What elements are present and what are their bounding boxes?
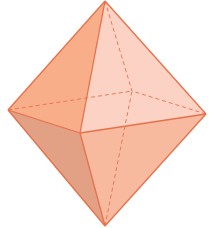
octahedron-svg xyxy=(0,0,214,228)
octahedron-diagram xyxy=(0,0,214,228)
